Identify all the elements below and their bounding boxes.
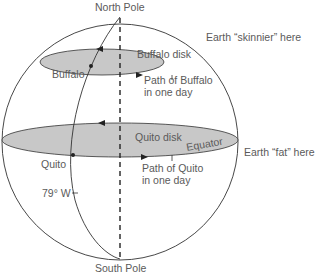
quito-label: Quito: [41, 158, 66, 170]
earth-diagram: North Pole South Pole Earth “skinnier” h…: [0, 0, 318, 275]
buffalo-disk-label: Buffalo disk: [137, 48, 192, 60]
quito-disk-label: Quito disk: [135, 131, 182, 143]
buffalo-dot: [89, 64, 93, 68]
longitude-label: 79° W: [42, 187, 71, 199]
earth-fat-label: Earth “fat” here: [244, 146, 315, 158]
quito-dot: [71, 153, 75, 157]
buffalo-arrow-front-icon: [136, 72, 143, 78]
north-pole-label: North Pole: [95, 1, 145, 13]
path-buffalo-label-1: Path of Buffalo: [144, 74, 213, 86]
south-pole-label: South Pole: [95, 262, 147, 274]
earth-skinnier-label: Earth “skinnier” here: [206, 31, 301, 43]
buffalo-label: Buffalo: [52, 68, 85, 80]
path-quito-label-2: in one day: [142, 174, 191, 186]
path-buffalo-label-2: in one day: [144, 86, 193, 98]
path-quito-label-1: Path of Quito: [142, 162, 203, 174]
